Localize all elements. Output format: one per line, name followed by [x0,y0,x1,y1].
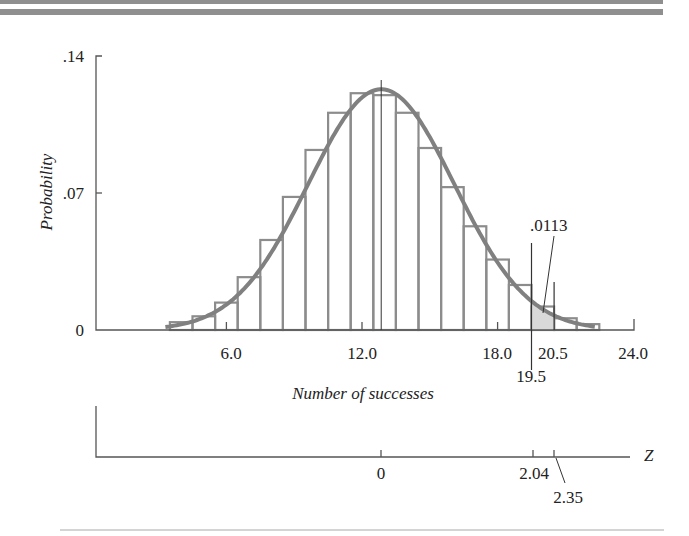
z-leader-line [556,458,565,483]
z-tick-label-2-35: 2.35 [553,488,583,507]
area-annotation: .0113 [530,216,568,235]
x-tick-label-18: 18.0 [482,344,512,363]
normal-approximation-chart: Probability Number of successes .14 .07 … [0,0,689,536]
normal-curve [165,89,594,327]
x-tick-label-12: 12.0 [347,344,377,363]
histogram-bar [419,148,442,330]
histogram-bar [306,150,329,330]
histogram-bar [373,95,396,330]
z-axis-line [96,406,630,457]
y-tick-label-014: .14 [63,47,85,66]
histogram-bar [396,113,419,330]
annotation-leader-line [543,236,554,313]
y-axis-label: Probability [37,153,56,231]
boundary-label-20-5: 20.5 [538,344,568,363]
x-tick-label-24: 24.0 [618,344,648,363]
histogram-bar [441,187,464,330]
boundary-label-19-5: 19.5 [516,367,546,386]
histogram-bar [283,197,306,330]
z-axis-label: Z [644,446,654,465]
histogram-bars [170,93,599,330]
z-tick-label-2-04: 2.04 [519,464,549,483]
histogram-bar [328,113,351,330]
z-tick-label-0: 0 [377,464,386,483]
histogram-bar [351,93,374,330]
x-axis-label: Number of successes [291,384,434,403]
y-tick-label-0: 0 [76,321,85,340]
axes [96,56,634,483]
y-tick-label-007: .07 [63,184,85,203]
x-tick-label-6: 6.0 [220,344,241,363]
histogram-bar [486,260,509,330]
